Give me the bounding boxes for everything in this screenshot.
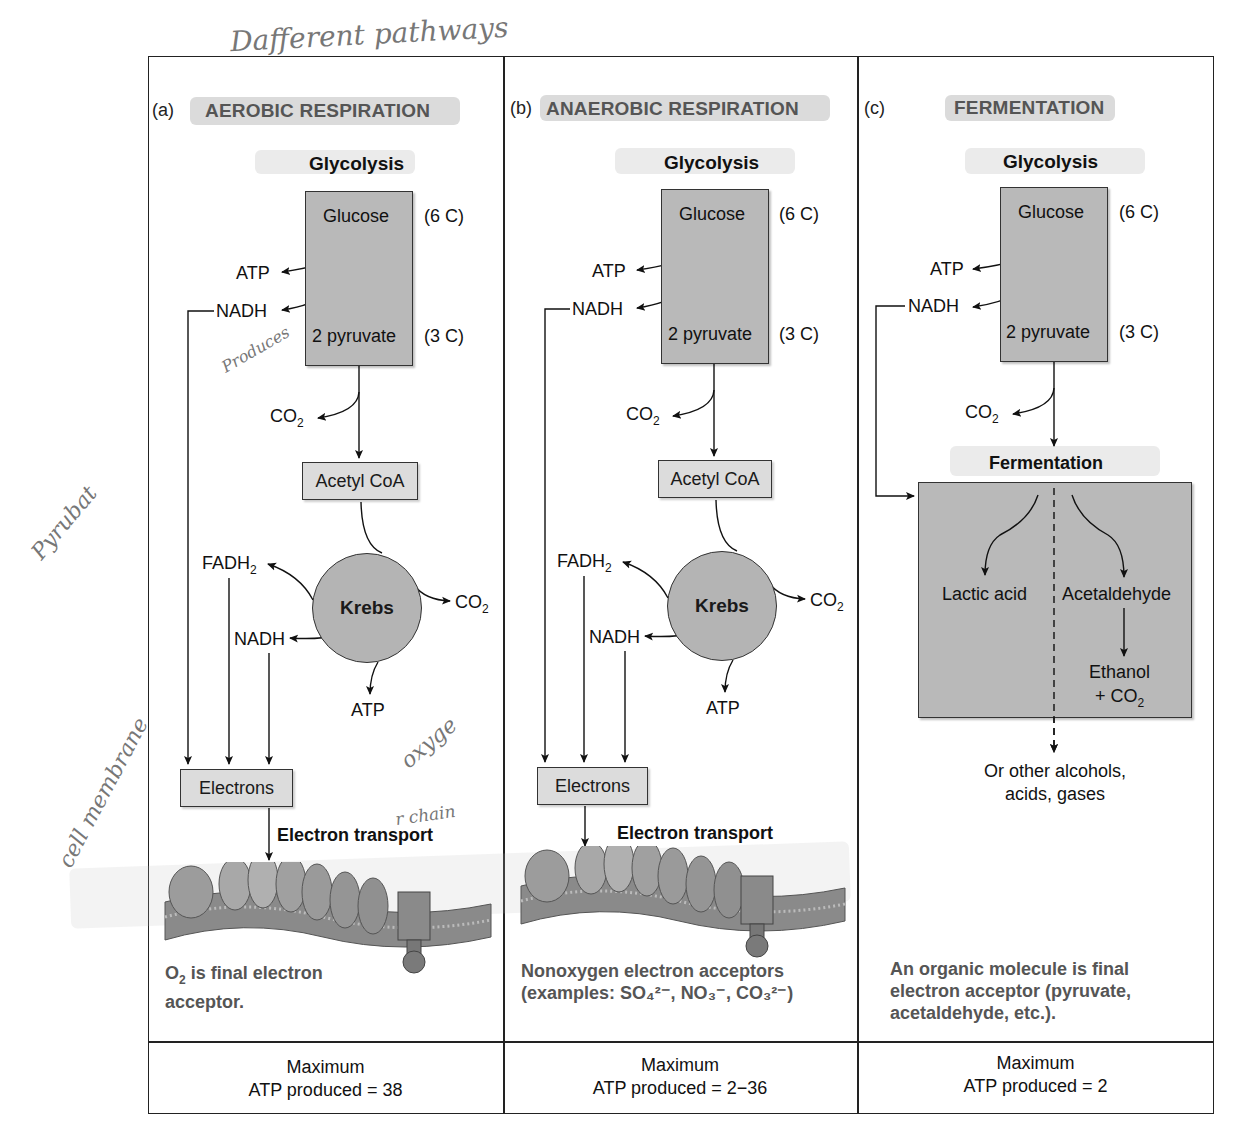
- panel-c-ethanol-co2: + CO2: [1095, 686, 1144, 710]
- panel-c-other-products: Or other alcohols, acids, gases: [958, 760, 1152, 806]
- panel-c-acceptor-note: An organic molecule is final electron ac…: [890, 958, 1131, 1024]
- panel-c-acetaldehyde: Acetaldehyde: [1062, 584, 1171, 605]
- panel-c-lactic-acid: Lactic acid: [942, 584, 1027, 605]
- panel-c-max-atp: Maximum ATP produced = 2: [857, 1052, 1214, 1098]
- panel-c-ethanol: Ethanol: [1089, 662, 1150, 683]
